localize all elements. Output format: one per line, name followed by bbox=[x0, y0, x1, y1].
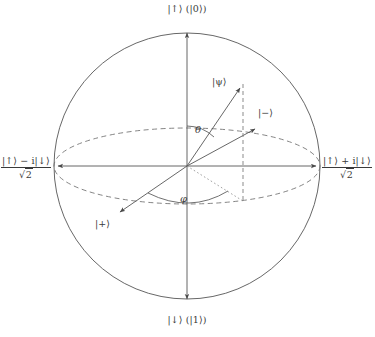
azimuthal-angle-arc bbox=[148, 191, 228, 203]
east-sqrt: √2 bbox=[340, 168, 354, 181]
state-vector-label: |ψ⟩ bbox=[212, 77, 227, 88]
state-vector-text: |ψ⟩ bbox=[212, 76, 227, 87]
east-pole-numerator: |↑⟩ + i|↓⟩ bbox=[322, 155, 372, 168]
north-pole-label: |↑⟩ (|0⟩) bbox=[167, 4, 206, 15]
polar-angle-label: θ bbox=[195, 124, 201, 136]
plus-state-label: |+⟩ bbox=[95, 219, 110, 230]
west-radicand: 2 bbox=[25, 168, 33, 181]
plus-state-text: |+⟩ bbox=[95, 218, 110, 229]
west-pole-denominator: √2 bbox=[1, 168, 51, 182]
west-pole-numerator: |↑⟩ − i|↓⟩ bbox=[1, 155, 51, 168]
x-axis-plus bbox=[120, 166, 187, 212]
bloch-sphere-drawing bbox=[0, 0, 375, 337]
west-sqrt: √2 bbox=[19, 168, 33, 181]
east-pole-label: |↑⟩ + i|↓⟩ √2 bbox=[322, 155, 372, 182]
south-pole-label: |↓⟩ (|1⟩) bbox=[167, 315, 206, 326]
polar-angle-text: θ bbox=[195, 124, 201, 135]
west-pole-fraction: |↑⟩ − i|↓⟩ √2 bbox=[1, 155, 51, 182]
north-pole-text: |↑⟩ (|0⟩) bbox=[167, 3, 206, 14]
minus-state-label: |−⟩ bbox=[258, 108, 273, 119]
south-pole-text: |↓⟩ (|1⟩) bbox=[167, 314, 206, 325]
east-radicand: 2 bbox=[346, 168, 354, 181]
equatorial-projection-dotted bbox=[187, 166, 243, 201]
east-pole-fraction: |↑⟩ + i|↓⟩ √2 bbox=[322, 155, 372, 182]
west-pole-label: |↑⟩ − i|↓⟩ √2 bbox=[1, 155, 51, 182]
east-pole-denominator: √2 bbox=[322, 168, 372, 182]
bloch-sphere-figure: |↑⟩ (|0⟩) |↓⟩ (|1⟩) |↑⟩ − i|↓⟩ √2 |↑⟩ + … bbox=[0, 0, 375, 337]
azimuthal-angle-label: φ bbox=[180, 193, 187, 205]
minus-state-text: |−⟩ bbox=[258, 107, 273, 118]
azimuthal-angle-text: φ bbox=[180, 193, 187, 204]
